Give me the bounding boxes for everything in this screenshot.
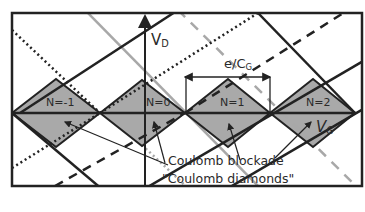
coulomb-blockade-label: Coulomb blockade	[168, 155, 284, 168]
vd-axis-label: VD	[151, 33, 169, 49]
period-label: e/CG	[224, 57, 252, 72]
diamond-label-n-1: N=1	[220, 97, 244, 108]
diamond-label-n-2: N=2	[306, 97, 330, 108]
vg-axis-label: VG	[316, 120, 334, 136]
coulomb-diamonds-label: "Coulomb diamonds"	[162, 173, 294, 186]
diamond-label-n-0: N=0	[146, 97, 170, 108]
diamond-label-n-minus-1: N=-1	[46, 97, 74, 108]
